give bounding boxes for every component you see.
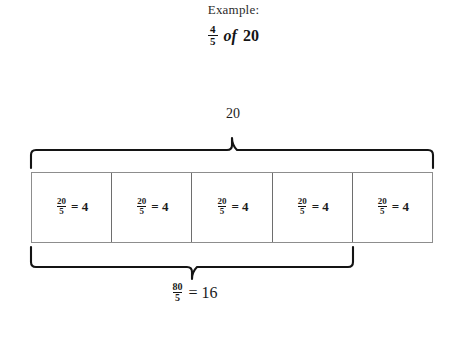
fraction-bar: 20 5 = 4 20 5 = 4 20 5 = 4 [31,172,433,243]
cell-expression: 20 5 = 4 [376,197,409,216]
cell-fraction: 20 5 [376,197,389,216]
cell-expression: 20 5 = 4 [55,197,88,216]
cell-fraction: 20 5 [55,197,68,216]
cell-fraction-numerator: 20 [296,197,309,206]
cell-fraction: 20 5 [296,197,309,216]
cell-fraction-numerator: 20 [215,197,228,206]
cell-equals-value: = 4 [392,199,409,215]
bar-cell[interactable]: 20 5 = 4 [192,173,272,242]
cell-fraction-numerator: 20 [135,197,148,206]
cell-expression: 20 5 = 4 [296,197,329,216]
cell-fraction-denominator: 5 [378,206,387,216]
bar-cell[interactable]: 20 5 = 4 [112,173,192,242]
cell-equals-value: = 4 [151,199,168,215]
cell-fraction-denominator: 5 [218,206,227,216]
worksheet-page: Example: 4 5 of 20 20 20 5 = 4 [0,0,467,339]
cell-fraction-numerator: 20 [376,197,389,206]
cell-expression: 20 5 = 4 [215,197,248,216]
cell-equals-value: = 4 [312,199,329,215]
cell-fraction-denominator: 5 [298,206,307,216]
result-fraction-denominator: 5 [173,292,182,303]
cell-fraction-denominator: 5 [137,206,146,216]
bar-cell[interactable]: 20 5 = 4 [353,173,432,242]
cell-equals-value: = 4 [231,199,248,215]
cell-fraction: 20 5 [135,197,148,216]
result-fraction: 80 5 [170,282,184,303]
result-equals-value: = 16 [188,284,217,302]
cell-fraction: 20 5 [215,197,228,216]
bottom-result-expression: 80 5 = 16 [142,282,246,303]
bar-cell[interactable]: 20 5 = 4 [273,173,353,242]
cell-fraction-denominator: 5 [57,206,66,216]
bar-cell[interactable]: 20 5 = 4 [32,173,112,242]
cell-expression: 20 5 = 4 [135,197,168,216]
bottom-curly-brace-icon [31,247,353,279]
cell-equals-value: = 4 [71,199,88,215]
result-fraction-numerator: 80 [170,282,184,292]
cell-fraction-numerator: 20 [55,197,68,206]
